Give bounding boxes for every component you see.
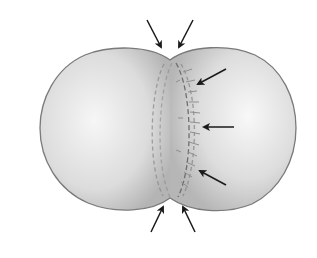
arrow-icon bbox=[183, 207, 195, 232]
arrow-icon bbox=[179, 20, 193, 47]
cell-left-lobe bbox=[40, 48, 170, 210]
diagram-canvas bbox=[0, 0, 317, 258]
arrow-icon bbox=[147, 20, 161, 47]
cell-division-diagram bbox=[0, 0, 317, 258]
arrow-icon bbox=[151, 207, 163, 232]
